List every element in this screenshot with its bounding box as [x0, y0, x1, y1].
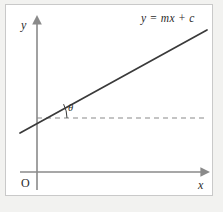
angle-theta-label: θ	[68, 103, 73, 114]
x-axis-label: x	[198, 179, 203, 191]
angle-arc-group	[64, 104, 67, 118]
y-axis-label: y	[21, 19, 26, 31]
equation-label: y = mx + c	[141, 13, 195, 25]
angle-arc	[64, 104, 67, 118]
origin-label: O	[21, 177, 30, 189]
figure-screenshot: y x O y = mx + c θ	[0, 0, 223, 212]
graph-canvas	[0, 0, 223, 212]
